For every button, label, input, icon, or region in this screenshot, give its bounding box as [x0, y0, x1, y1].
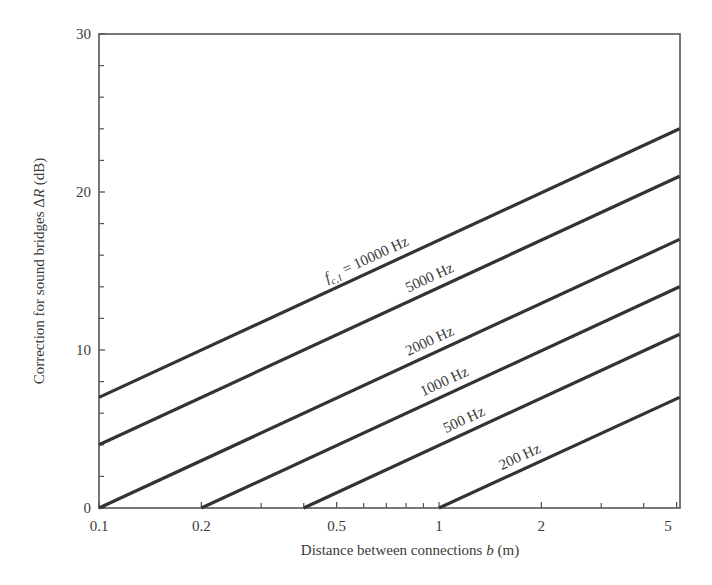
x-tick-label: 2	[538, 518, 546, 534]
y-tick-label: 20	[76, 184, 91, 200]
x-axis-title: Distance between connections b (m)	[301, 542, 519, 559]
series-label: 5000 Hz	[403, 259, 457, 295]
series-line	[99, 129, 680, 398]
series-line	[99, 176, 680, 445]
y-tick-label: 10	[76, 342, 91, 358]
series-line	[304, 334, 680, 508]
x-tick-label: 0.2	[192, 518, 211, 534]
series-label: 2000 Hz	[403, 322, 457, 358]
y-tick-label: 30	[76, 26, 91, 42]
chart: 0.10.20.5125 0102030 fc,1 = 10000 Hz5000…	[0, 0, 712, 585]
series-line	[201, 287, 679, 508]
x-tick-label: 5	[664, 518, 672, 534]
x-tick-label: 1	[435, 518, 443, 534]
y-axis-title: Correction for sound bridges ΔR (dB)	[31, 158, 48, 385]
series-label: 200 Hz	[496, 440, 543, 473]
y-tick-label: 0	[84, 500, 92, 516]
series-label: 500 Hz	[441, 403, 488, 436]
x-tick-label: 0.1	[90, 518, 109, 534]
x-tick-label: 0.5	[327, 518, 346, 534]
series-lines	[99, 129, 680, 508]
series-label: fc,1 = 10000 Hz	[322, 233, 413, 289]
series-label: 1000 Hz	[418, 363, 472, 399]
x-axis: 0.10.20.5125	[90, 502, 677, 534]
